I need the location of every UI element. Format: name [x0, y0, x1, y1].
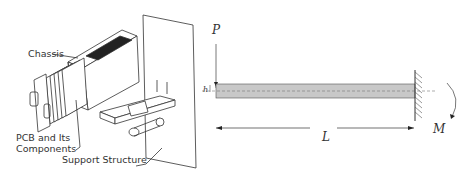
wall-plate	[143, 15, 196, 168]
wall-hatching	[415, 72, 422, 118]
label-thickness-h: h	[203, 85, 208, 94]
label-chassis: Chassis	[28, 48, 64, 59]
label-pcb-line2: Components	[16, 143, 76, 154]
label-support: Support Structure	[62, 154, 147, 165]
label-length-L: L	[321, 130, 330, 144]
diagram-canvas: Chassis PCB and Its Components Support S…	[0, 0, 472, 180]
beam-diagram	[202, 44, 456, 130]
pcb-cards	[30, 58, 87, 132]
label-moment-M: M	[432, 122, 446, 136]
label-pcb-line1: PCB and Its	[16, 132, 70, 143]
beam	[216, 84, 415, 98]
moment-arc	[447, 83, 456, 117]
moment-arrowhead	[450, 114, 455, 119]
label-load-P: P	[211, 23, 221, 37]
